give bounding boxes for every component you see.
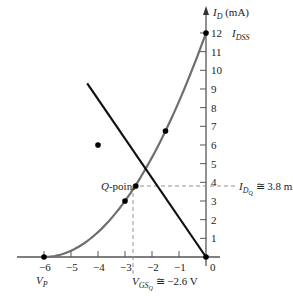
data-point: [163, 128, 169, 134]
transfer-characteristic-chart: −6−5−4−3−2−10 123456789101112 ID (mA) ID…: [0, 0, 293, 305]
id-axis-label: ID (mA): [212, 6, 249, 21]
x-tick-label: −5: [66, 261, 78, 273]
y-tick-label: 1: [211, 232, 217, 244]
data-point: [122, 198, 128, 204]
vgsq-label: VGSQ ≅ −2.6 V: [132, 275, 198, 291]
x-tick-label: −4: [93, 261, 105, 273]
y-tick-label: 9: [211, 83, 217, 95]
y-tick-label: 4: [211, 176, 217, 188]
y-tick-label: 6: [211, 139, 217, 151]
data-point: [203, 30, 209, 36]
idq-label: IDQ ≅ 3.8 mA: [238, 180, 293, 196]
y-tick-label: 12: [211, 27, 222, 39]
y-tick-label: 3: [211, 195, 217, 207]
x-tick-label: −1: [174, 261, 186, 273]
axes: [17, 6, 220, 266]
bias-line: [87, 83, 206, 257]
idss-label: IDSS: [231, 27, 249, 42]
y-tick-label: 7: [211, 120, 217, 132]
y-tick-label: 8: [211, 102, 217, 114]
y-tick-label: 5: [211, 158, 217, 170]
x-ticks: −6−5−4−3−2−10: [39, 251, 216, 273]
x-tick-label: 0: [210, 261, 216, 273]
y-ticks: 123456789101112: [200, 27, 223, 244]
data-point: [203, 254, 209, 260]
data-point: [41, 254, 47, 260]
x-tick-label: −3: [120, 261, 132, 273]
data-point: [95, 142, 101, 148]
y-tick-label: 10: [211, 64, 223, 76]
y-axis-arrow-icon: [203, 6, 209, 15]
vp-label: VP: [36, 274, 48, 289]
y-tick-label: 2: [211, 214, 217, 226]
x-tick-label: −2: [147, 261, 159, 273]
x-tick-label: −6: [39, 261, 51, 273]
q-point-label: Q-point: [101, 180, 135, 192]
y-tick-label: 11: [211, 46, 222, 58]
